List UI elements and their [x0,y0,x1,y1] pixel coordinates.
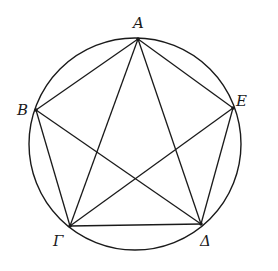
vertex-labels: A B Γ Δ E [16,14,247,250]
label-gamma: Γ [52,232,64,250]
diagonal-ag [70,39,138,226]
vertex-e [231,106,235,110]
circumcircle [29,38,241,250]
diagonal-bd [36,110,201,224]
side-de [201,108,233,224]
side-ea [138,39,233,108]
label-e: E [235,92,247,110]
diagonal-ge [70,108,233,226]
label-b: B [16,101,28,119]
vertex-a [136,37,140,41]
pentagon-diagram: A B Γ Δ E [0,0,278,271]
segments [36,39,233,226]
side-bg [36,110,70,226]
vertex-b [34,108,38,112]
vertex-d [199,222,203,226]
label-delta: Δ [199,232,211,250]
diagonal-ad [138,39,201,224]
side-gd [70,224,201,226]
vertex-g [68,224,72,228]
label-a: A [131,14,144,32]
